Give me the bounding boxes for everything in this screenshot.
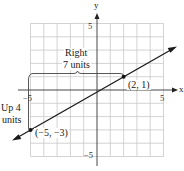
y-axis-arrow-icon [95,13,100,19]
y-tick-5: 5 [88,22,92,31]
x-tick-5: 5 [160,94,164,103]
x-tick-neg5: −5 [23,94,32,103]
point-neg5-neg3 [29,128,33,132]
right-label-line1: Right [64,48,88,58]
point-2-1 [122,75,126,79]
right-7-units-brace [29,71,124,80]
line-arrow-left-icon [12,134,21,140]
right-label-line2: 7 units [62,60,91,70]
x-axis-label: x [179,85,184,94]
y-tick-neg5: −5 [84,151,93,160]
up-label-line2: units [2,115,21,125]
point-label-neg5-neg3: (−5, −3) [34,128,69,138]
up-label-line1: Up 4 [1,103,21,113]
point-label-2-1: (2, 1) [127,80,151,90]
y-axis-label: y [94,1,99,10]
line-arrow-right-icon [168,46,177,52]
x-axis-arrow-icon [172,88,178,93]
